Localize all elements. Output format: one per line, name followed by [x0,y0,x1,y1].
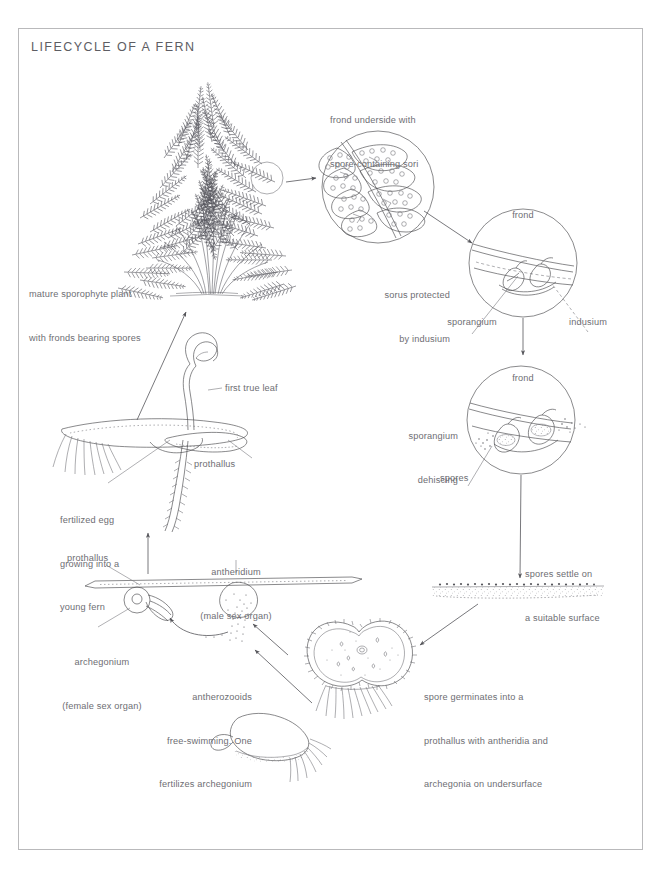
label-sporangium: sporangium [412,315,532,330]
label-frond-top: frond [483,208,563,223]
label-antheridium: antheridium (male sex organ) [176,536,296,652]
label-frond-bottom: frond [483,371,563,386]
arrow-settle-to-prothallus [420,604,478,645]
label-indusium: indusium [545,315,631,330]
sorus-indusium-circle-illustration [469,209,577,317]
arrow-prothallus-to-antherozooids [255,650,312,703]
leader-prothallus-upper [228,440,252,458]
label-first-true-leaf: first true leaf [225,381,278,396]
mature-fern-plant-illustration [117,82,298,305]
label-frond-underside: frond underside with spore-containing so… [330,84,418,200]
arrow-young-fern-to-mature [137,312,186,420]
arrow-sori-to-sorus [424,211,472,243]
label-spores-settle: spores settle on a suitable surface [525,538,600,654]
label-prothallus-upper: prothallus [194,457,235,472]
label-spores: spores [440,471,468,486]
label-sporangium-dehiscing: sporangium dehiscing [368,400,458,516]
germinated-prothallus-illustration [304,618,417,719]
leader-first-true-leaf [208,388,222,390]
diagram-page: LIFECYCLE OF A FERN [0,0,663,875]
leader-spores [468,446,492,486]
arrow-plant-to-sori [286,178,316,182]
label-fertilized-egg: fertilized egg growing into a young fern [60,484,119,644]
label-spore-germinates: spore germinates into a prothallus with … [424,661,548,821]
arrow-dehiscing-to-settle [520,475,521,578]
label-mature-sporophyte: mature sporophyte plant with fronds bear… [29,258,141,374]
